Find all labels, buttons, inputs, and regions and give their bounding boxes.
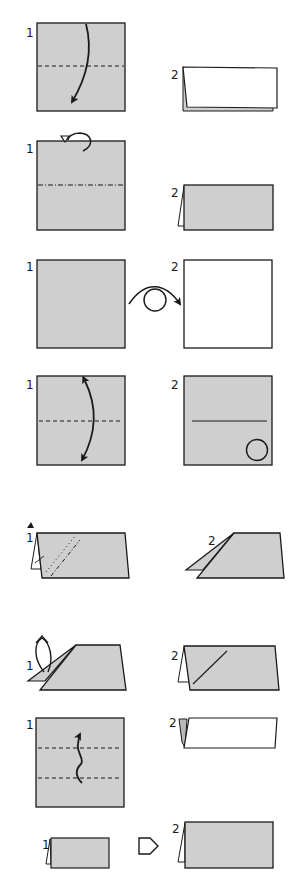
step-label-1: 1	[26, 26, 34, 40]
square-paper	[36, 718, 124, 807]
pleated-rectangle-white	[184, 718, 277, 748]
row-valley-fold-in-half: 1 2	[26, 23, 277, 111]
square-paper-colored	[37, 260, 125, 348]
step-label-1: 1	[26, 531, 34, 545]
row-turn-over: 1 2	[26, 260, 272, 348]
row-pleat-fold: 1 2	[26, 716, 277, 807]
step-label-2: 2	[171, 186, 179, 200]
row-inside-reverse-fold: 1 2	[26, 522, 284, 578]
step-label-2: 2	[171, 260, 179, 274]
row-unfold: 1 2	[26, 636, 279, 690]
square-paper-white	[184, 260, 272, 348]
step-label-2: 2	[171, 68, 179, 82]
folded-rectangle-white	[183, 67, 277, 108]
unfold-arrow-icon	[36, 636, 48, 643]
large-folded-rectangle	[185, 822, 273, 868]
step-label-1: 1	[26, 718, 34, 732]
step-label-1: 1	[26, 378, 34, 392]
step-label-2: 2	[171, 649, 179, 663]
step-label-2: 2	[169, 716, 177, 730]
turn-over-loop-icon	[144, 289, 166, 311]
square-paper	[37, 23, 125, 111]
step-label-1: 1	[26, 260, 34, 274]
folded-rectangle-gray	[184, 185, 273, 230]
folded-rectangle-gray	[184, 646, 279, 690]
step-label-1: 1	[26, 142, 34, 156]
enlarge-arrow-icon	[139, 838, 158, 854]
push-arrow-icon	[27, 522, 34, 528]
row-fold-and-unfold: 1 2	[26, 376, 272, 465]
origami-symbols-diagram: 1 2 1 2 1 2 1 2	[0, 0, 297, 890]
row-mountain-fold-in-half: 1 2	[26, 133, 273, 230]
row-enlarged-view: 1 2	[42, 822, 273, 868]
step-label-2: 2	[208, 534, 216, 548]
step-label-2: 2	[172, 822, 180, 836]
folded-rectangle-gray	[37, 533, 129, 578]
step-label-2: 2	[171, 378, 179, 392]
small-folded-rectangle	[51, 838, 109, 868]
step-label-1: 1	[26, 659, 34, 673]
